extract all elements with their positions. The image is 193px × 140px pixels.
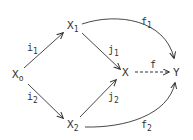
label-j2: j2 bbox=[108, 92, 119, 105]
label-j1: j1 bbox=[108, 45, 119, 58]
node-x-base: X bbox=[122, 66, 129, 79]
node-x2-sub: 2 bbox=[74, 124, 79, 133]
node-y: Y bbox=[173, 67, 180, 78]
label-f-base: f bbox=[150, 59, 156, 70]
node-x1: X1 bbox=[67, 20, 78, 34]
label-f1: f1 bbox=[141, 17, 152, 30]
node-x2-base: X bbox=[67, 118, 74, 131]
node-x1-sub: 1 bbox=[74, 25, 79, 34]
label-f: f bbox=[150, 60, 156, 70]
pushout-diagram: Xo X1 X2 X Y i1 i2 j1 j2 f f1 f2 bbox=[0, 0, 193, 140]
label-i2: i2 bbox=[27, 92, 38, 105]
label-f2-sub: 2 bbox=[147, 124, 152, 133]
arrow-f1 bbox=[82, 19, 174, 58]
label-i1-sub: 1 bbox=[33, 47, 38, 56]
arrows-layer bbox=[0, 0, 193, 140]
arrow-f2 bbox=[85, 83, 175, 127]
label-j1-sub: 1 bbox=[114, 49, 119, 58]
node-x: X bbox=[122, 67, 129, 78]
node-x2: X2 bbox=[67, 119, 78, 133]
label-i2-sub: 2 bbox=[33, 96, 38, 105]
label-f1-sub: 1 bbox=[147, 21, 152, 30]
label-f2: f2 bbox=[141, 120, 152, 133]
node-x1-base: X bbox=[67, 19, 74, 32]
label-i1: i1 bbox=[27, 43, 38, 56]
node-y-base: Y bbox=[173, 66, 180, 79]
node-x0-sub: o bbox=[19, 74, 24, 83]
node-x0: Xo bbox=[12, 69, 23, 83]
label-j2-sub: 2 bbox=[114, 96, 119, 105]
node-x0-base: X bbox=[12, 68, 19, 81]
